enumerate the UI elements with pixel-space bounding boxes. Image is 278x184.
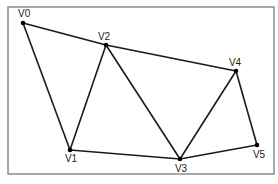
vertex-v5 xyxy=(255,143,260,148)
vertex-v3 xyxy=(178,157,183,162)
vertex-label-v3: V3 xyxy=(175,163,188,174)
vertex-v0 xyxy=(21,21,26,26)
vertex-label-v2: V2 xyxy=(98,31,111,42)
vertex-label-v4: V4 xyxy=(229,57,242,68)
vertex-v2 xyxy=(104,43,109,48)
graph-diagram: V0V1V2V3V4V5 xyxy=(0,0,278,184)
vertex-label-v0: V0 xyxy=(18,8,31,19)
vertex-label-v5: V5 xyxy=(253,149,266,160)
vertex-label-v1: V1 xyxy=(65,153,78,164)
vertex-v1 xyxy=(68,148,73,153)
vertex-v4 xyxy=(234,69,239,74)
